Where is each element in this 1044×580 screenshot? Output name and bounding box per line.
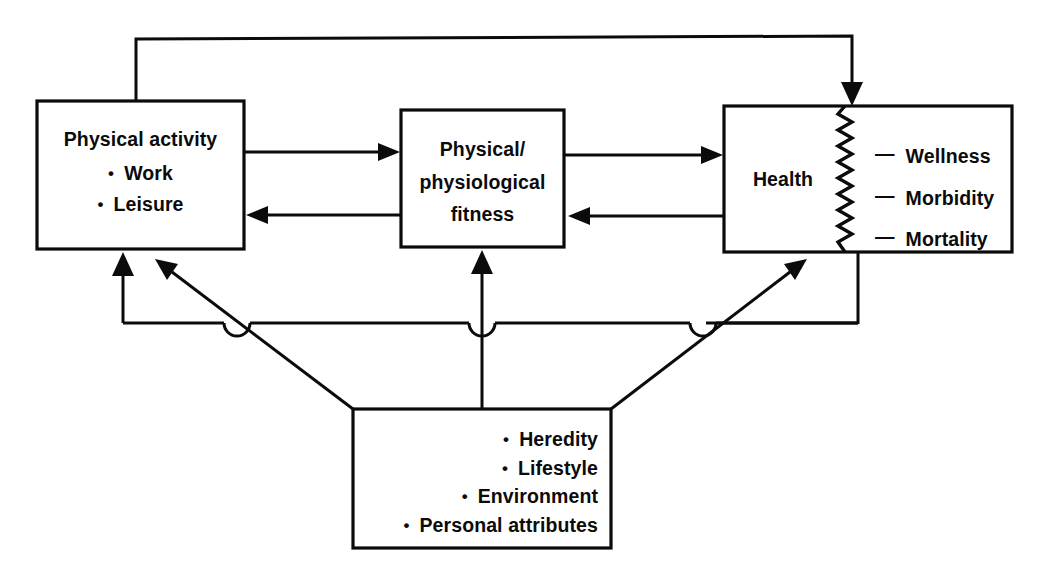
edge-health-to-fitness xyxy=(568,207,724,225)
bullet-dot-icon: • xyxy=(108,165,114,182)
determinant-label: Heredity xyxy=(519,428,598,450)
outcome-label: Wellness xyxy=(906,145,991,167)
determinants-list: •Heredity •Lifestyle •Environment •Perso… xyxy=(353,430,598,544)
physical-activity-bullet-leisure: •Leisure xyxy=(37,195,244,215)
outcome-label: Mortality xyxy=(906,228,988,250)
bullet-label: Leisure xyxy=(113,193,183,215)
determinant-personal-attributes: •Personal attributes xyxy=(353,516,598,536)
bullet-dot-icon: • xyxy=(462,488,468,505)
health-outcome-wellness: —Wellness xyxy=(875,144,994,167)
outcome-label: Morbidity xyxy=(906,187,995,209)
edge-fitness-to-activity xyxy=(246,206,401,224)
fitness-line-2: physiological xyxy=(401,173,564,193)
edge-determinants-to-fitness xyxy=(471,250,493,409)
diagram-canvas: Physical activity •Work •Leisure Physica… xyxy=(0,0,1044,580)
fitness-line-1: Physical/ xyxy=(401,140,564,160)
physical-activity-title: Physical activity xyxy=(37,130,244,150)
edge-fitness-to-health xyxy=(564,146,723,164)
determinant-environment: •Environment xyxy=(353,487,598,507)
health-title: Health xyxy=(724,170,842,190)
bullet-dot-icon: • xyxy=(502,460,508,477)
health-outcome-mortality: —Mortality xyxy=(875,227,994,250)
determinant-label: Lifestyle xyxy=(518,457,598,479)
determinant-lifestyle: •Lifestyle xyxy=(353,459,598,479)
edge-determinants-to-activity-diagonal xyxy=(155,259,353,409)
dash-icon: — xyxy=(875,144,895,164)
dash-icon: — xyxy=(875,186,895,206)
health-outcome-morbidity: —Morbidity xyxy=(875,186,994,209)
edge-health-to-determinants-bus xyxy=(706,252,858,324)
determinant-label: Environment xyxy=(478,485,598,507)
physical-activity-bullet-work: •Work xyxy=(37,164,244,184)
fitness-line-3: fitness xyxy=(401,205,564,225)
determinant-heredity: •Heredity xyxy=(353,430,598,450)
edge-determinants-to-activity-riser xyxy=(112,252,134,323)
edge-determinants-to-health-diagonal xyxy=(611,259,807,409)
bullet-label: Work xyxy=(124,162,173,184)
edge-activity-to-fitness xyxy=(244,143,400,161)
node-text-fitness: Physical/ physiological fitness xyxy=(401,140,564,225)
health-outcomes-list: —Wellness —Morbidity —Mortality xyxy=(875,144,994,269)
dash-icon: — xyxy=(875,227,895,247)
edge-activity-to-health-feedback xyxy=(136,36,863,106)
node-text-health: Health xyxy=(724,170,842,190)
bus-line-left-segment xyxy=(123,323,858,336)
bullet-dot-icon: • xyxy=(503,431,509,448)
bullet-dot-icon: • xyxy=(97,196,103,213)
determinant-label: Personal attributes xyxy=(419,514,598,536)
node-text-physical-activity: Physical activity •Work •Leisure xyxy=(37,130,244,225)
bullet-dot-icon: • xyxy=(403,517,409,534)
